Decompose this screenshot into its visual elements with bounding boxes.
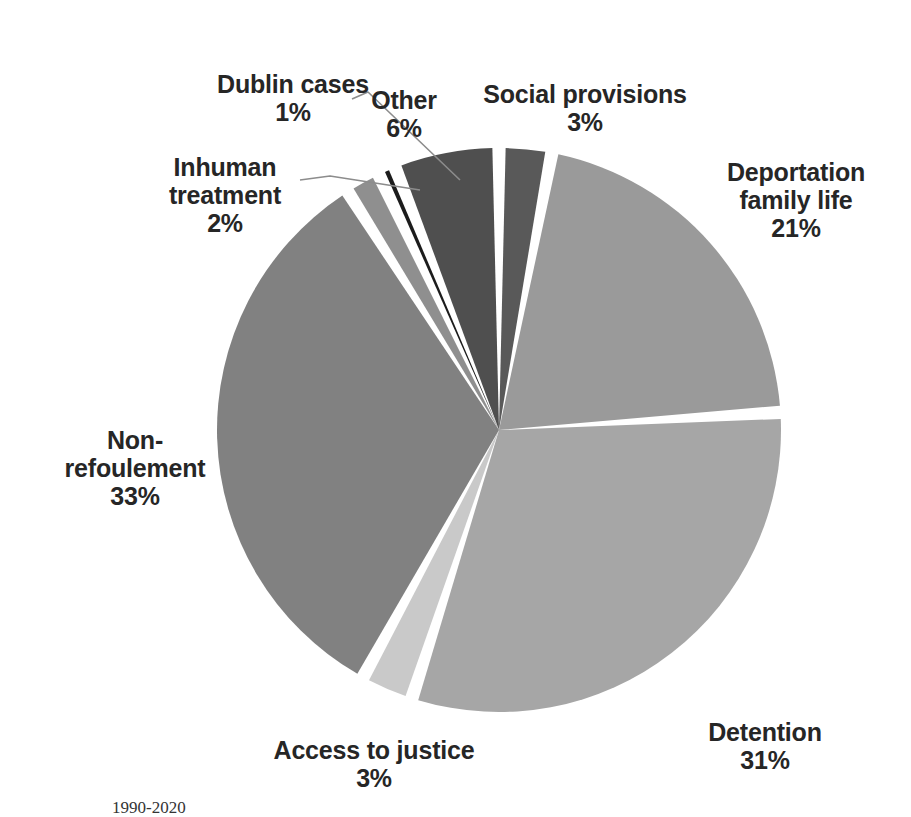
slice-label-deportation-family-life: Deportation family life 21% xyxy=(690,130,902,270)
figure-caption: 1990-2020 xyxy=(112,798,872,817)
slice-label-inhuman-treatment-value: 2% xyxy=(125,209,325,237)
slice-label-inhuman-treatment-name: Inhuman treatment xyxy=(169,153,281,209)
slice-label-access-to-justice-value: 3% xyxy=(229,764,519,792)
slice-label-detention: Detention 31% xyxy=(665,690,865,802)
slice-label-deportation-family-life-value: 21% xyxy=(690,214,902,242)
slice-label-non-refoulement-value: 33% xyxy=(45,482,225,510)
pie-chart-figure: Social provisions 3% Other 6% Dublin cas… xyxy=(0,0,911,817)
slice-label-detention-value: 31% xyxy=(665,746,865,774)
slice-label-social-provisions-name: Social provisions xyxy=(483,80,687,108)
slice-label-detention-name: Detention xyxy=(708,718,821,746)
slice-label-non-refoulement: Non- refoulement 33% xyxy=(45,398,225,538)
slice-label-non-refoulement-name: Non- refoulement xyxy=(65,426,206,482)
slice-label-deportation-family-life-name: Deportation family life xyxy=(727,158,865,214)
slice-label-inhuman-treatment: Inhuman treatment 2% xyxy=(125,125,325,265)
slice-label-social-provisions: Social provisions 3% xyxy=(470,52,700,164)
slice-label-dublin-cases-name: Dublin cases xyxy=(217,70,369,98)
slice-label-access-to-justice-name: Access to justice xyxy=(274,736,475,764)
slice-label-dublin-cases-value: 1% xyxy=(193,98,393,126)
slice-label-social-provisions-value: 3% xyxy=(470,108,700,136)
